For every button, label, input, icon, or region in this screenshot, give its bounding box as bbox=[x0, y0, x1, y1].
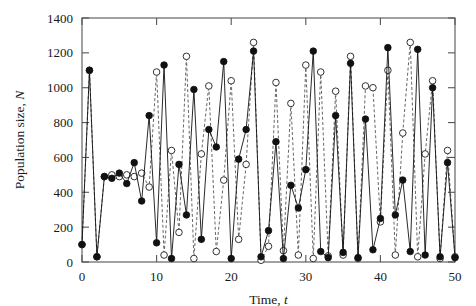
data-point-marker bbox=[407, 39, 414, 46]
data-point-marker bbox=[355, 254, 362, 261]
data-point-marker bbox=[414, 253, 421, 260]
data-point-marker bbox=[332, 88, 339, 95]
data-point-marker bbox=[399, 177, 406, 184]
data-point-marker bbox=[444, 147, 451, 154]
data-point-marker bbox=[385, 67, 392, 74]
data-point-marker bbox=[79, 241, 86, 248]
data-point-marker bbox=[362, 116, 369, 123]
data-point-marker bbox=[198, 151, 205, 158]
y-tick-label: 400 bbox=[54, 185, 74, 200]
data-point-marker bbox=[161, 62, 168, 69]
data-point-marker bbox=[198, 236, 205, 243]
data-point-marker bbox=[243, 126, 250, 133]
data-point-marker bbox=[116, 170, 123, 177]
data-point-marker bbox=[377, 215, 384, 222]
data-point-marker bbox=[347, 60, 354, 67]
data-point-marker bbox=[191, 255, 198, 262]
data-point-marker bbox=[109, 175, 116, 182]
data-point-marker bbox=[138, 198, 145, 205]
data-point-marker bbox=[243, 161, 250, 168]
data-point-marker bbox=[220, 177, 227, 184]
data-point-marker bbox=[146, 112, 153, 119]
data-point-marker bbox=[123, 180, 130, 187]
data-point-marker bbox=[168, 255, 175, 262]
data-point-marker bbox=[325, 254, 332, 261]
x-axis-title: Time, t bbox=[249, 292, 289, 306]
data-point-marker bbox=[161, 252, 168, 259]
data-point-marker bbox=[303, 62, 310, 69]
data-point-marker bbox=[94, 253, 101, 260]
data-point-marker bbox=[146, 184, 153, 191]
data-point-marker bbox=[317, 69, 324, 76]
data-point-marker bbox=[235, 156, 242, 163]
data-point-marker bbox=[414, 46, 421, 53]
data-point-marker bbox=[86, 67, 93, 74]
data-point-marker bbox=[206, 126, 213, 133]
data-point-marker bbox=[220, 58, 227, 65]
x-tick-label: 40 bbox=[374, 269, 387, 284]
data-point-marker bbox=[265, 243, 272, 250]
data-point-marker bbox=[407, 248, 414, 255]
data-point-marker bbox=[452, 254, 459, 261]
data-point-marker bbox=[370, 247, 377, 254]
data-point-marker bbox=[258, 253, 265, 260]
y-tick-label: 1400 bbox=[47, 11, 73, 26]
data-point-marker bbox=[437, 253, 444, 260]
data-point-marker bbox=[235, 236, 242, 243]
x-tick-label: 0 bbox=[79, 269, 86, 284]
data-point-marker bbox=[176, 229, 183, 236]
data-point-marker bbox=[295, 205, 302, 212]
y-tick-label: 200 bbox=[54, 220, 74, 235]
data-point-marker bbox=[250, 48, 257, 55]
y-tick-label: 0 bbox=[67, 255, 74, 270]
y-tick-label: 600 bbox=[54, 150, 74, 165]
x-tick-label: 10 bbox=[150, 269, 163, 284]
data-point-marker bbox=[250, 39, 257, 46]
x-tick-label: 50 bbox=[449, 269, 462, 284]
data-point-marker bbox=[183, 53, 190, 60]
population-dynamics-chart: 0200400600800100012001400 01020304050 Ti… bbox=[0, 0, 476, 306]
data-point-marker bbox=[385, 44, 392, 51]
data-point-marker bbox=[131, 159, 138, 166]
data-point-marker bbox=[332, 112, 339, 119]
data-point-marker bbox=[310, 255, 317, 262]
y-tick-label: 1200 bbox=[47, 45, 73, 60]
x-tick-label: 30 bbox=[299, 269, 312, 284]
y-axis-title: Population size, N bbox=[12, 90, 27, 190]
data-point-marker bbox=[429, 77, 436, 84]
x-tick-label: 20 bbox=[225, 269, 238, 284]
data-point-marker bbox=[399, 130, 406, 137]
data-point-marker bbox=[444, 159, 451, 166]
y-tick-label: 800 bbox=[54, 115, 74, 130]
data-point-marker bbox=[392, 252, 399, 259]
data-point-marker bbox=[422, 151, 429, 158]
data-point-marker bbox=[288, 100, 295, 107]
data-point-marker bbox=[265, 227, 272, 234]
data-point-marker bbox=[370, 84, 377, 91]
data-point-marker bbox=[317, 248, 324, 255]
data-point-marker bbox=[273, 79, 280, 86]
data-point-marker bbox=[280, 255, 287, 262]
chart-canvas: 0200400600800100012001400 01020304050 Ti… bbox=[0, 0, 476, 306]
data-point-marker bbox=[340, 249, 347, 256]
data-point-marker bbox=[422, 252, 429, 259]
data-point-marker bbox=[273, 138, 280, 145]
data-point-marker bbox=[303, 166, 310, 173]
data-point-marker bbox=[288, 182, 295, 189]
data-point-marker bbox=[295, 252, 302, 259]
data-point-marker bbox=[168, 147, 175, 154]
data-point-marker bbox=[153, 69, 160, 76]
data-point-marker bbox=[176, 161, 183, 168]
data-point-marker bbox=[392, 212, 399, 219]
y-tick-label: 1000 bbox=[47, 80, 73, 95]
data-point-marker bbox=[310, 48, 317, 55]
data-point-marker bbox=[347, 53, 354, 60]
data-point-marker bbox=[191, 86, 198, 93]
data-point-marker bbox=[153, 240, 160, 247]
data-point-marker bbox=[213, 144, 220, 151]
data-point-marker bbox=[429, 84, 436, 91]
data-point-marker bbox=[228, 255, 235, 262]
data-point-marker bbox=[101, 173, 108, 180]
data-point-marker bbox=[228, 77, 235, 84]
data-point-marker bbox=[213, 248, 220, 255]
